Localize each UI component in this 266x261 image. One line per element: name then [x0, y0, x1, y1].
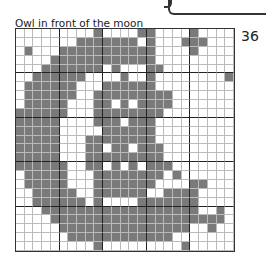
grid-cell[interactable] [51, 180, 60, 189]
grid-cell[interactable] [199, 180, 208, 189]
grid-cell[interactable] [68, 242, 77, 251]
grid-cell[interactable] [51, 127, 60, 136]
grid-cell[interactable] [156, 180, 165, 189]
grid-cell[interactable] [103, 100, 112, 109]
grid-cell[interactable] [25, 29, 34, 38]
grid-cell[interactable] [138, 73, 147, 82]
grid-cell[interactable] [94, 82, 103, 91]
grid-cell[interactable] [25, 215, 34, 224]
grid-cell[interactable] [129, 153, 138, 162]
grid-cell[interactable] [164, 224, 173, 233]
grid-cell[interactable] [182, 100, 191, 109]
grid-cell[interactable] [51, 73, 60, 82]
grid-cell[interactable] [16, 127, 25, 136]
grid-cell[interactable] [225, 162, 234, 171]
grid-cell[interactable] [77, 198, 86, 207]
grid-cell[interactable] [225, 29, 234, 38]
grid-cell[interactable] [164, 127, 173, 136]
grid-cell[interactable] [182, 144, 191, 153]
grid-cell[interactable] [121, 162, 130, 171]
grid-cell[interactable] [208, 118, 217, 127]
grid-cell[interactable] [147, 198, 156, 207]
grid-cell[interactable] [42, 207, 51, 216]
grid-cell[interactable] [94, 224, 103, 233]
grid-cell[interactable] [16, 144, 25, 153]
grid-cell[interactable] [103, 180, 112, 189]
grid-cell[interactable] [33, 29, 42, 38]
grid-cell[interactable] [156, 100, 165, 109]
grid-cell[interactable] [16, 171, 25, 180]
grid-cell[interactable] [77, 242, 86, 251]
grid-cell[interactable] [16, 91, 25, 100]
grid-cell[interactable] [25, 189, 34, 198]
grid-cell[interactable] [68, 109, 77, 118]
grid-cell[interactable] [121, 100, 130, 109]
grid-cell[interactable] [112, 65, 121, 74]
grid-cell[interactable] [182, 56, 191, 65]
grid-cell[interactable] [77, 100, 86, 109]
grid-cell[interactable] [208, 215, 217, 224]
grid-cell[interactable] [129, 91, 138, 100]
grid-cell[interactable] [217, 47, 226, 56]
grid-cell[interactable] [60, 136, 69, 145]
grid-cell[interactable] [156, 65, 165, 74]
grid-cell[interactable] [156, 109, 165, 118]
grid-cell[interactable] [190, 171, 199, 180]
grid-cell[interactable] [60, 47, 69, 56]
grid-cell[interactable] [225, 118, 234, 127]
grid-cell[interactable] [25, 73, 34, 82]
grid-cell[interactable] [94, 215, 103, 224]
grid-cell[interactable] [42, 109, 51, 118]
grid-cell[interactable] [190, 189, 199, 198]
grid-cell[interactable] [86, 47, 95, 56]
grid-cell[interactable] [42, 136, 51, 145]
grid-cell[interactable] [164, 136, 173, 145]
grid-cell[interactable] [112, 82, 121, 91]
grid-cell[interactable] [217, 82, 226, 91]
grid-cell[interactable] [51, 198, 60, 207]
grid-cell[interactable] [121, 207, 130, 216]
grid-cell[interactable] [190, 242, 199, 251]
grid-cell[interactable] [86, 109, 95, 118]
grid-cell[interactable] [190, 73, 199, 82]
grid-cell[interactable] [138, 136, 147, 145]
grid-cell[interactable] [94, 242, 103, 251]
grid-cell[interactable] [138, 47, 147, 56]
grid-cell[interactable] [225, 47, 234, 56]
grid-cell[interactable] [129, 65, 138, 74]
grid-cell[interactable] [147, 162, 156, 171]
grid-cell[interactable] [164, 118, 173, 127]
grid-cell[interactable] [33, 100, 42, 109]
grid-cell[interactable] [112, 242, 121, 251]
grid-cell[interactable] [51, 136, 60, 145]
grid-cell[interactable] [217, 91, 226, 100]
grid-cell[interactable] [156, 82, 165, 91]
grid-cell[interactable] [51, 215, 60, 224]
grid-cell[interactable] [208, 65, 217, 74]
grid-cell[interactable] [42, 144, 51, 153]
grid-cell[interactable] [164, 198, 173, 207]
grid-cell[interactable] [156, 207, 165, 216]
grid-cell[interactable] [25, 198, 34, 207]
grid-cell[interactable] [147, 189, 156, 198]
grid-cell[interactable] [60, 153, 69, 162]
grid-cell[interactable] [217, 29, 226, 38]
grid-cell[interactable] [121, 127, 130, 136]
grid-cell[interactable] [129, 73, 138, 82]
grid-cell[interactable] [77, 180, 86, 189]
grid-cell[interactable] [42, 56, 51, 65]
grid-cell[interactable] [25, 47, 34, 56]
grid-cell[interactable] [16, 207, 25, 216]
grid-cell[interactable] [164, 233, 173, 242]
grid-cell[interactable] [156, 224, 165, 233]
grid-cell[interactable] [121, 144, 130, 153]
grid-cell[interactable] [173, 29, 182, 38]
grid-cell[interactable] [25, 91, 34, 100]
grid-cell[interactable] [129, 189, 138, 198]
grid-cell[interactable] [60, 91, 69, 100]
grid-cell[interactable] [103, 162, 112, 171]
grid-cell[interactable] [208, 29, 217, 38]
grid-cell[interactable] [164, 162, 173, 171]
grid-cell[interactable] [77, 233, 86, 242]
grid-cell[interactable] [190, 100, 199, 109]
